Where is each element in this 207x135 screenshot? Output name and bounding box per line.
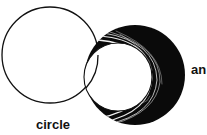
- diagram-canvas: [0, 0, 207, 135]
- label-an: an: [191, 62, 206, 77]
- left-circle: [2, 7, 98, 103]
- label-circle: circle: [36, 117, 70, 132]
- shaded-sphere: [84, 25, 185, 125]
